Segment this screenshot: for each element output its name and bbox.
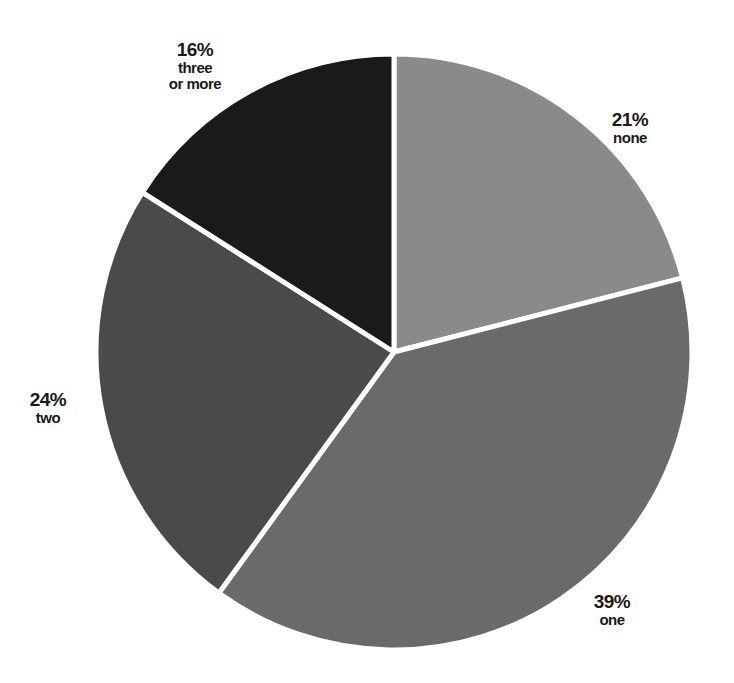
slice-category: none: [612, 130, 649, 146]
slice-percent: 39%: [594, 592, 631, 612]
slice-label-one: 39%one: [594, 592, 631, 628]
slice-percent: 16%: [169, 40, 221, 60]
slice-category: two: [30, 410, 67, 426]
slice-label-none: 21%none: [612, 110, 649, 146]
pie-chart: [0, 0, 734, 683]
slice-category: one: [594, 612, 631, 628]
slice-percent: 21%: [612, 110, 649, 130]
slice-label-two: 24%two: [30, 390, 67, 426]
slice-category: threeor more: [169, 60, 221, 92]
slice-label-three-or-more: 16%threeor more: [169, 40, 221, 91]
slice-percent: 24%: [30, 390, 67, 410]
